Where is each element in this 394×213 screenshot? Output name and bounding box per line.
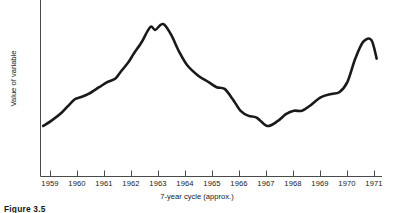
- tick-label-1966: 1966: [230, 179, 247, 188]
- tick-label-1960: 1960: [68, 179, 85, 188]
- figure-caption: Figure 3.5: [4, 204, 46, 213]
- tick-label-1969: 1969: [311, 179, 328, 188]
- tick-label-1962: 1962: [122, 179, 139, 188]
- tick-label-1971: 1971: [365, 179, 382, 188]
- data-series-line: [43, 24, 376, 126]
- tick-label-1963: 1963: [149, 179, 166, 188]
- y-axis-title: Value of variable: [9, 39, 18, 119]
- tick-label-1959: 1959: [41, 179, 58, 188]
- tick-label-1965: 1965: [203, 179, 220, 188]
- line-chart-plot: [0, 0, 394, 213]
- tick-label-1961: 1961: [95, 179, 112, 188]
- figure-container: 1959 1960 1961 1962 1963 1964 1965 1966 …: [0, 0, 394, 213]
- x-axis-title: 7-year cycle (approx.): [0, 192, 394, 201]
- x-axis-ticks: [51, 171, 375, 177]
- tick-label-1968: 1968: [284, 179, 301, 188]
- tick-label-1967: 1967: [257, 179, 274, 188]
- tick-label-1970: 1970: [338, 179, 355, 188]
- tick-label-1964: 1964: [176, 179, 193, 188]
